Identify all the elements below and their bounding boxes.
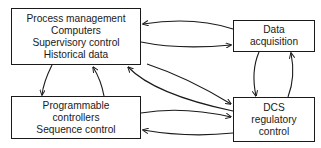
arrow-plc-to-process: [93, 67, 104, 96]
arrow-data-to-dcs: [254, 52, 259, 96]
process-management-box: Process management Computers Supervisory…: [11, 8, 141, 65]
arrow-process-to-dcs: [147, 64, 231, 104]
arrow-dcs-to-data: [288, 53, 293, 97]
arrow-data-to-process: [143, 21, 233, 29]
arrow-dcs-to-process: [128, 67, 233, 111]
arrow-plc-to-dcs: [141, 110, 231, 117]
plc-line-1: Programmable: [43, 100, 110, 112]
data-acquisition-box: Data acquisition: [233, 20, 315, 52]
plc-line-2: controllers: [53, 112, 100, 124]
data-line-2: acquisition: [250, 36, 298, 48]
dcs-line-1: DCS: [263, 102, 285, 114]
arrow-process-to-plc: [42, 65, 52, 95]
process-line-4: Historical data: [44, 49, 109, 61]
dcs-regulatory-control-box: DCS regulatory control: [233, 97, 315, 142]
arrow-process-to-data: [141, 42, 231, 47]
plc-line-3: Sequence control: [36, 124, 115, 136]
dcs-line-2: regulatory: [251, 114, 296, 126]
programmable-controllers-box: Programmable controllers Sequence contro…: [11, 96, 141, 139]
process-line-1: Process management: [26, 13, 125, 25]
data-line-1: Data: [263, 24, 285, 36]
dcs-line-3: control: [259, 126, 290, 138]
control-system-diagram: Process management Computers Supervisory…: [0, 0, 321, 148]
arrow-dcs-to-plc: [143, 130, 233, 135]
process-line-3: Supervisory control: [32, 37, 119, 49]
process-line-2: Computers: [51, 25, 101, 37]
